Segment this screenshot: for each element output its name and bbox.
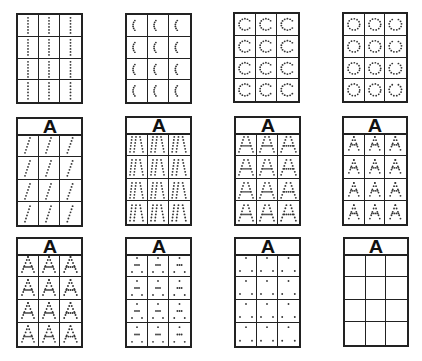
tracing-cell — [169, 254, 190, 277]
dot-guide-icon — [39, 37, 59, 58]
tracing-cell — [127, 300, 148, 323]
tracing-cell — [366, 254, 387, 277]
dot-guide-icon — [39, 80, 59, 102]
dot-guide-icon — [235, 14, 255, 35]
tracing-cell — [127, 37, 148, 59]
dot-guide-icon — [385, 58, 406, 79]
tracing-cell — [18, 323, 39, 346]
dot-guide-icon — [236, 156, 256, 178]
dot-guide-icon — [60, 134, 81, 156]
dot-guide-icon — [278, 179, 299, 201]
tracing-cell — [256, 14, 277, 36]
dot-guide-icon — [366, 322, 386, 345]
dot-guide-icon — [18, 15, 38, 36]
dot-guide-icon — [365, 133, 385, 155]
tracing-cell — [18, 254, 39, 277]
dot-guide-icon — [18, 59, 38, 80]
dot-guide-icon — [257, 179, 277, 201]
tracing-cell — [366, 322, 387, 345]
dot-guide-icon — [344, 156, 364, 178]
tracing-cell — [39, 300, 60, 323]
tracing-cell — [39, 323, 60, 346]
tracing-cell — [278, 277, 299, 300]
tracing-cell — [60, 59, 81, 81]
dot-guide-icon — [344, 36, 364, 57]
tracing-cell — [385, 133, 406, 156]
tracing-cell — [127, 133, 148, 156]
letter-a-label: A — [260, 118, 274, 133]
tracing-cell — [148, 59, 169, 81]
dot-guide-icon — [39, 254, 59, 276]
tracing-cell — [386, 277, 407, 300]
tracing-card-7: A — [234, 116, 301, 226]
tracing-cell — [385, 201, 406, 224]
tracing-cell — [277, 58, 298, 80]
dot-guide-icon — [127, 323, 147, 346]
letter-a-label: A — [369, 239, 383, 254]
dot-guide-icon — [345, 254, 365, 276]
dot-guide-icon — [127, 37, 147, 58]
tracing-cell — [18, 157, 39, 180]
tracing-cell — [366, 300, 387, 323]
tracing-cell — [127, 323, 148, 346]
tracing-cell — [386, 322, 407, 345]
dot-guide-icon — [39, 300, 59, 322]
dot-guide-icon — [257, 300, 277, 322]
tracing-cell — [60, 254, 81, 277]
dot-guide-icon — [60, 202, 81, 225]
tracing-cell — [60, 80, 81, 102]
dot-guide-icon — [344, 201, 364, 224]
dot-guide-icon — [386, 300, 407, 322]
tracing-cell — [235, 14, 256, 36]
dot-guide-icon — [235, 36, 255, 57]
tracing-cell — [60, 277, 81, 300]
tracing-cell — [169, 156, 190, 179]
tracing-cell — [169, 323, 190, 346]
tracing-grid — [236, 133, 299, 224]
tracing-cell — [169, 80, 190, 102]
tracing-cell — [365, 58, 386, 80]
tracing-card-4 — [342, 12, 408, 103]
tracing-cell — [257, 179, 278, 202]
tracing-cell — [39, 15, 60, 37]
dot-guide-icon — [127, 201, 147, 224]
tracing-cell — [278, 201, 299, 224]
tracing-cell — [257, 201, 278, 224]
tracing-cell — [257, 133, 278, 156]
dot-guide-icon — [169, 156, 190, 178]
dot-guide-icon — [60, 277, 81, 299]
tracing-grid — [345, 254, 407, 345]
tracing-cell — [169, 300, 190, 323]
tracing-cell — [344, 58, 365, 80]
tracing-cell — [127, 156, 148, 179]
dot-guide-icon — [148, 254, 168, 276]
tracing-cell — [385, 14, 406, 36]
tracing-cell — [148, 179, 169, 202]
tracing-cell — [385, 36, 406, 58]
tracing-card-11: A — [234, 237, 301, 348]
dot-guide-icon — [148, 323, 168, 346]
tracing-cell — [257, 254, 278, 277]
tracing-cell — [385, 156, 406, 179]
dot-guide-icon — [344, 14, 364, 35]
dot-guide-icon — [236, 201, 256, 224]
tracing-cell — [366, 277, 387, 300]
tracing-cell — [277, 36, 298, 58]
tracing-cell — [18, 180, 39, 203]
letter-a-label: A — [42, 239, 56, 254]
tracing-cell — [345, 254, 366, 277]
tracing-cell — [344, 201, 365, 224]
tracing-cell — [344, 79, 365, 101]
dot-guide-icon — [366, 254, 386, 276]
dot-guide-icon — [169, 300, 190, 322]
dot-guide-icon — [257, 156, 277, 178]
dot-guide-icon — [365, 36, 385, 57]
dot-guide-icon — [127, 277, 147, 299]
dot-guide-icon — [256, 14, 276, 35]
dot-guide-icon — [278, 201, 299, 224]
dot-guide-icon — [39, 180, 59, 202]
dot-guide-icon — [148, 37, 168, 58]
tracing-cell — [169, 201, 190, 224]
tracing-cell — [236, 323, 257, 346]
dot-guide-icon — [169, 254, 190, 276]
